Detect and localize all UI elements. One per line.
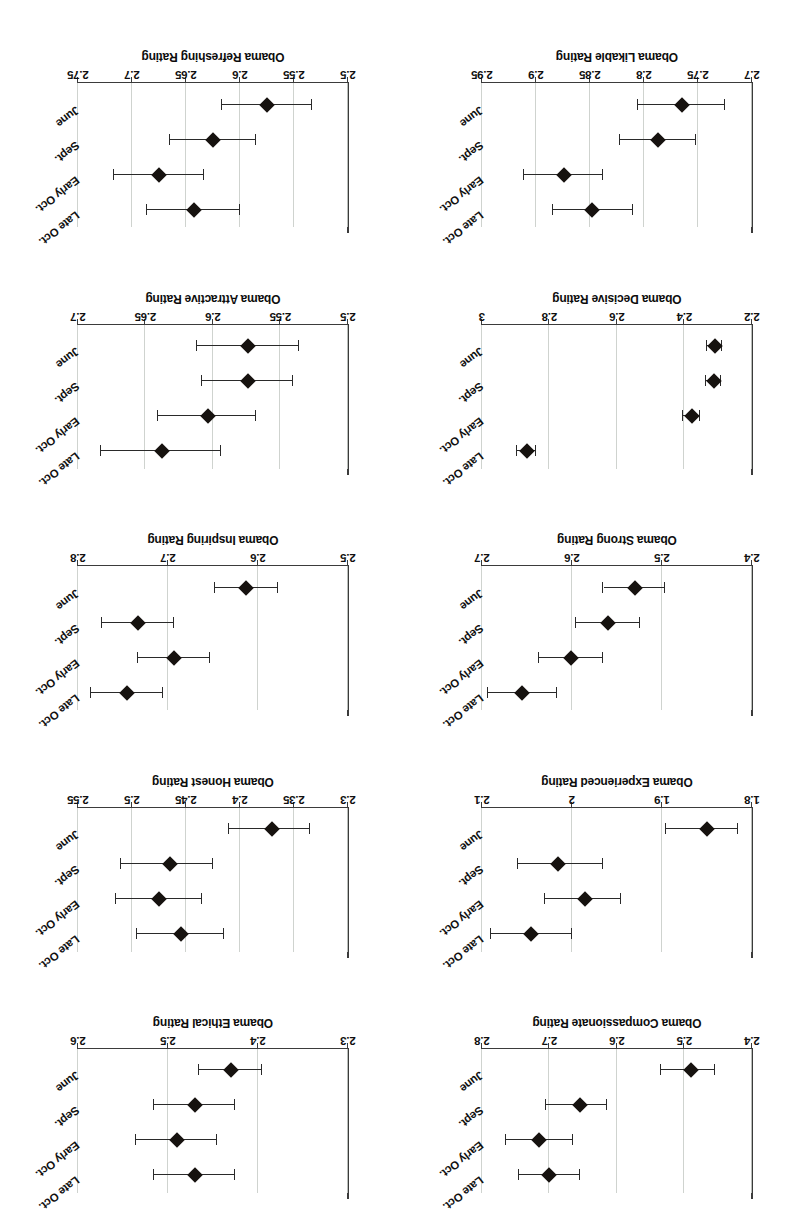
gridline <box>661 808 662 952</box>
plot-area <box>482 570 752 710</box>
category-label: June <box>458 828 486 853</box>
value-axis-line <box>482 565 752 566</box>
data-point-marker <box>524 926 540 942</box>
error-cap-low <box>621 893 622 904</box>
plot-area <box>482 329 752 469</box>
error-cap-low <box>664 582 665 593</box>
data-point-marker <box>169 1133 185 1149</box>
error-cap-high <box>136 1135 137 1146</box>
value-axis-ticklabels: 2.22.42.62.83 <box>482 307 752 323</box>
axis-tick-label: 1.9 <box>654 794 669 806</box>
data-point-marker <box>205 132 221 148</box>
axis-tick-label: 2.2 <box>744 311 759 323</box>
value-axis-ticklabels: 2.42.52.62.7 <box>482 548 752 564</box>
category-label: June <box>458 346 486 371</box>
category-axis-labels: JuneSept.Early Oct.Late Oct. <box>406 806 482 956</box>
category-axis-labels: JuneSept.Early Oct.Late Oct. <box>2 806 78 956</box>
data-point-marker <box>600 615 616 631</box>
error-cap-high <box>221 99 222 110</box>
category-axis-labels: JuneSept.Early Oct.Late Oct. <box>406 564 482 714</box>
gridline <box>131 808 132 952</box>
error-cap-low <box>639 617 640 628</box>
error-cap-low <box>239 204 240 215</box>
category-label: Sept. <box>457 139 486 165</box>
category-label: June <box>458 587 486 612</box>
axis-tick-label: 2.55 <box>283 69 305 81</box>
chart-panel: 1.81.922.1Obama Experienced RatingJuneSe… <box>404 724 808 965</box>
data-point-marker <box>707 339 723 355</box>
error-cap-low <box>255 134 256 145</box>
axis-title: Obama Likable Rating <box>482 50 752 64</box>
error-cap-high <box>154 1100 155 1111</box>
category-axis-labels: JuneSept.Early Oct.Late Oct. <box>2 323 78 473</box>
category-label: Late Oct. <box>441 1175 486 1213</box>
data-point-marker <box>131 615 147 631</box>
data-point-marker <box>187 1168 203 1184</box>
category-label: Sept. <box>457 622 486 648</box>
category-axis-labels: JuneSept.Early Oct.Late Oct. <box>2 81 78 231</box>
data-point-marker <box>162 856 178 872</box>
value-axis-ticklabels: 2.32.42.52.6 <box>78 1031 348 1047</box>
gridline <box>643 83 644 227</box>
value-axis-ticklabels: 2.52.552.62.652.72.75 <box>78 65 348 81</box>
data-point-marker <box>200 409 216 425</box>
axis-tick-label: 2.75 <box>687 69 709 81</box>
axis-tick-label: 2.4 <box>250 1035 265 1047</box>
axis-tick-label: 2.5 <box>340 69 355 81</box>
data-point-marker <box>187 1098 203 1114</box>
category-label: Sept. <box>53 1105 82 1131</box>
axis-title: Obama Decisive Rating <box>482 292 752 306</box>
data-point-marker <box>167 650 183 666</box>
axis-tick-label: 2.55 <box>67 794 89 806</box>
gridline <box>347 325 348 469</box>
axis-tick-label: 2.8 <box>542 311 557 323</box>
data-point-marker <box>572 1098 588 1114</box>
category-label: June <box>54 104 82 129</box>
axis-tick-label: 2.6 <box>205 311 220 323</box>
error-cap-low <box>556 687 557 698</box>
data-point-marker <box>151 891 167 907</box>
error-cap-low <box>173 617 174 628</box>
value-axis-ticklabels: 2.32.352.42.452.52.55 <box>78 790 348 806</box>
axis-tick-label: 2.6 <box>609 1035 624 1047</box>
axis-tick-label: 2.5 <box>124 794 139 806</box>
category-label: Sept. <box>457 381 486 407</box>
error-cap-low <box>695 134 696 145</box>
axis-tick-label: 2.9 <box>528 69 543 81</box>
error-cap-low <box>298 340 299 351</box>
error-cap-high <box>120 858 121 869</box>
data-point-marker <box>151 167 167 183</box>
category-label: Sept. <box>457 1105 486 1131</box>
axis-tick-label: 2.5 <box>654 552 669 564</box>
data-point-marker <box>532 1133 548 1149</box>
error-cap-low <box>262 1065 263 1076</box>
data-point-marker <box>519 444 535 460</box>
value-axis-line <box>482 324 752 325</box>
gridline <box>145 325 146 469</box>
value-axis-line <box>78 1048 348 1049</box>
data-point-marker <box>120 685 136 701</box>
value-axis-line <box>78 565 348 566</box>
plot-area <box>482 812 752 952</box>
value-axis-ticklabels: 2.52.62.72.8 <box>78 548 348 564</box>
error-cap-high <box>115 893 116 904</box>
error-cap-low <box>223 928 224 939</box>
axis-tick-label: 2.1 <box>474 794 489 806</box>
category-axis-labels: JuneSept.Early Oct.Late Oct. <box>406 81 482 231</box>
axis-tick-label: 2.95 <box>471 69 493 81</box>
error-cap-high <box>575 617 576 628</box>
gridline <box>535 83 536 227</box>
axis-tick-label: 2.4 <box>677 311 692 323</box>
axis-tick-label: 2.8 <box>474 1035 489 1047</box>
plot-area <box>78 87 348 227</box>
axis-tick-label: 2.4 <box>744 552 759 564</box>
category-label: Sept. <box>457 863 486 889</box>
axis-tick-label: 2.6 <box>250 552 265 564</box>
axis-tick-label: 2.5 <box>340 552 355 564</box>
data-point-marker <box>684 409 700 425</box>
category-label: June <box>458 104 486 129</box>
axis-title: Obama Compassionate Rating <box>482 1016 752 1030</box>
axis-tick-label: 2.6 <box>564 552 579 564</box>
value-axis-line <box>482 807 752 808</box>
data-point-marker <box>515 685 531 701</box>
